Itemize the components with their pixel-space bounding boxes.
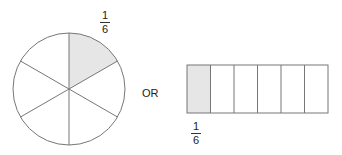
shaded-sector: [69, 33, 118, 89]
rectangle-bar: [187, 65, 328, 113]
denominator: 6: [193, 135, 199, 146]
numerator: 1: [193, 121, 199, 132]
circle-fraction-label: 1 6: [100, 10, 110, 35]
or-label: OR: [142, 87, 159, 99]
fraction-diagram: [0, 0, 342, 155]
denominator: 6: [102, 24, 108, 35]
rectangle-fraction-label: 1 6: [191, 121, 201, 146]
circle-pie: [13, 33, 125, 145]
numerator: 1: [102, 10, 108, 21]
shaded-cell: [187, 65, 211, 113]
